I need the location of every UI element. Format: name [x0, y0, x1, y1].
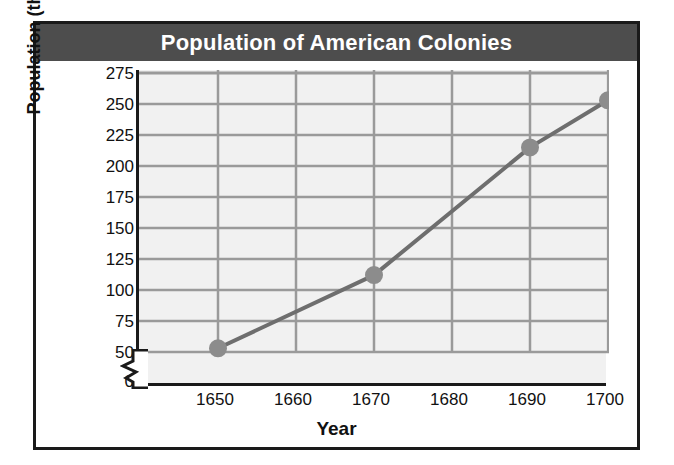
y-tick-label: 225 — [84, 127, 134, 144]
population-line — [218, 100, 608, 348]
x-tick-label: 1670 — [336, 390, 406, 410]
data-point-1670 — [365, 266, 383, 284]
chart-figure: Population of American Colonies Populati… — [33, 21, 640, 450]
x-tick-label: 1690 — [492, 390, 562, 410]
y-tick-label: 75 — [84, 313, 134, 330]
x-tick-label: 1660 — [258, 390, 328, 410]
x-axis-line — [136, 383, 606, 386]
plot-area — [136, 70, 606, 383]
y-tick-label: 250 — [84, 96, 134, 113]
x-tick-label: 1700 — [570, 390, 640, 410]
x-tick-label: 1650 — [180, 390, 250, 410]
y-tick-label: 275 — [84, 65, 134, 82]
y-tick-label: 125 — [84, 251, 134, 268]
y-axis-break-icon — [120, 349, 148, 389]
y-tick-label: 100 — [84, 282, 134, 299]
y-tick-label: 150 — [84, 220, 134, 237]
y-tick-label: 200 — [84, 158, 134, 175]
data-point-markers — [209, 91, 609, 357]
chart-title: Population of American Colonies — [161, 30, 512, 56]
data-point-1690 — [521, 138, 539, 156]
vertical-gridlines — [218, 70, 608, 352]
x-tick-label: 1680 — [414, 390, 484, 410]
x-axis-tick-labels: 165016601670168016901700 — [136, 390, 606, 416]
data-point-1650 — [209, 339, 227, 357]
chart-plot-svg — [139, 70, 609, 383]
y-axis-tick-labels: 05075100125150175200225250275 — [84, 64, 134, 394]
y-tick-label: 175 — [84, 189, 134, 206]
x-axis-title: Year — [36, 418, 637, 440]
y-axis-title: Population (thousands) — [24, 0, 45, 144]
chart-title-bar: Population of American Colonies — [36, 24, 637, 61]
